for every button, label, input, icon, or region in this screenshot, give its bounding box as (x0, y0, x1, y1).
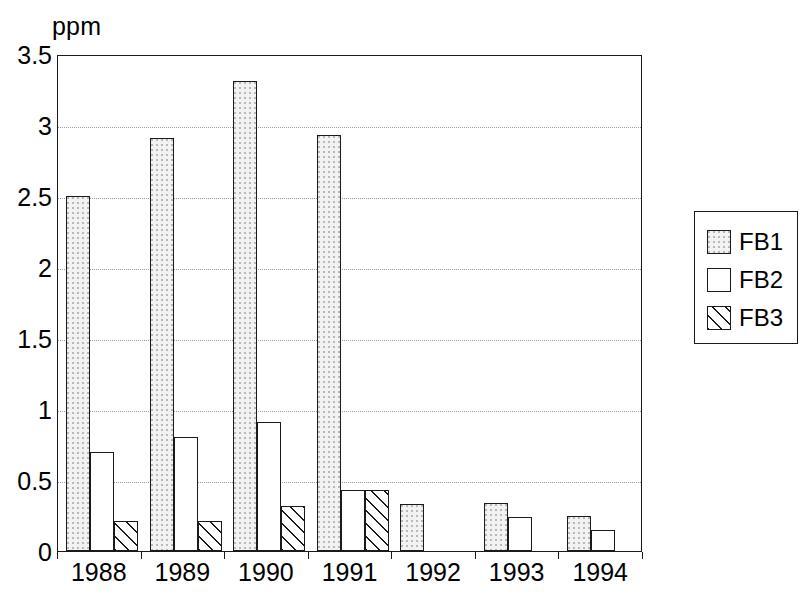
bar-fb3-1990 (281, 506, 305, 551)
bar-fb3-1989 (198, 521, 222, 551)
bar-fb1-1991 (317, 135, 341, 551)
y-axis-tick-label: 1 (6, 398, 52, 423)
gridline (58, 198, 641, 199)
bar-fb2-1994 (591, 530, 615, 551)
bar-chart-figure: ppm 00.511.522.533.5 1988198919901991199… (0, 0, 812, 596)
x-axis-tick (391, 552, 392, 559)
bar-fb1-1992 (400, 504, 424, 551)
x-axis-tick (308, 552, 309, 559)
y-axis-tick-label: 2 (6, 256, 52, 281)
gridline (58, 340, 641, 341)
legend-box: FB1FB2FB3 (694, 211, 798, 344)
legend-item-fb2[interactable]: FB2 (707, 268, 783, 292)
legend-label-fb3: FB3 (739, 306, 783, 330)
bar-fb1-1989 (150, 138, 174, 551)
legend-label-fb2: FB2 (739, 268, 783, 292)
x-axis-tick-label-1989: 1989 (155, 560, 211, 585)
x-axis-tick-label-1990: 1990 (238, 560, 294, 585)
gridline (58, 411, 641, 412)
bar-fb3-1988 (114, 521, 138, 551)
x-axis-tick (642, 552, 643, 559)
x-axis-tick-label-1992: 1992 (405, 560, 461, 585)
bar-fb1-1988 (66, 196, 90, 551)
bar-fb1-1993 (484, 503, 508, 551)
gridline (58, 269, 641, 270)
x-axis-tick-labels: 1988198919901991199219931994 (57, 560, 642, 594)
bar-fb1-1990 (233, 81, 257, 551)
bar-fb2-1993 (508, 517, 532, 551)
y-axis-tick-labels: 00.511.522.533.5 (0, 55, 52, 552)
y-axis-tick-label: 2.5 (6, 185, 52, 210)
bar-fb1-1994 (567, 516, 591, 552)
x-axis-tick (475, 552, 476, 559)
y-axis-tick-label: 0.5 (6, 469, 52, 494)
y-axis-tick-label: 3.5 (6, 43, 52, 68)
y-axis-unit-label: ppm (52, 14, 101, 39)
x-axis-tick (224, 552, 225, 559)
bar-fb2-1990 (257, 422, 281, 551)
gridline (58, 482, 641, 483)
bar-fb3-1991 (365, 490, 389, 551)
x-axis-tick (558, 552, 559, 559)
legend-swatch-fb2 (707, 268, 731, 292)
y-axis-tick-label: 3 (6, 114, 52, 139)
legend-item-fb3[interactable]: FB3 (707, 306, 783, 330)
x-axis-tick (141, 552, 142, 559)
y-axis-tick-label: 0 (6, 540, 52, 565)
legend-label-fb1: FB1 (739, 230, 783, 254)
legend-item-fb1[interactable]: FB1 (707, 230, 783, 254)
plot-area (57, 55, 642, 552)
legend-swatch-fb1 (707, 230, 731, 254)
bar-fb2-1991 (341, 490, 365, 551)
y-axis-tick-label: 1.5 (6, 327, 52, 352)
bar-fb2-1989 (174, 437, 198, 551)
x-axis-tick-label-1988: 1988 (71, 560, 127, 585)
plot-inner (58, 56, 641, 551)
x-axis-tick-label-1994: 1994 (572, 560, 628, 585)
gridline (58, 127, 641, 128)
legend-swatch-fb3 (707, 306, 731, 330)
bar-fb2-1988 (90, 452, 114, 551)
x-axis-tick-label-1991: 1991 (322, 560, 378, 585)
x-axis-tick (57, 552, 58, 559)
x-axis-tick-label-1993: 1993 (489, 560, 545, 585)
